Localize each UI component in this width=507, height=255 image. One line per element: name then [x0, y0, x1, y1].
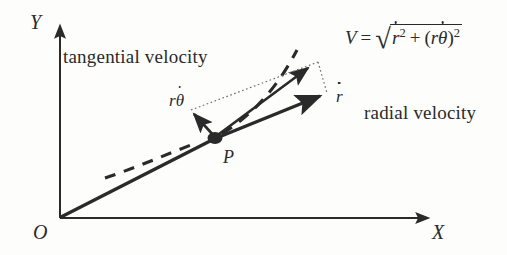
radical-icon: √: [375, 23, 391, 54]
x-axis-label: X: [432, 222, 444, 242]
origin-label: O: [33, 222, 47, 242]
formula-term2-exponent: 2: [454, 26, 460, 40]
velocity-magnitude-formula: V=√r2+(rθ)2: [345, 22, 462, 51]
formula-plus: +: [410, 27, 421, 48]
overdot-icon: [394, 21, 397, 24]
formula-term2-theta-dot: θ: [438, 28, 447, 47]
formula-term1-rdot: r: [392, 28, 399, 47]
formula-radicand: r2+(rθ)2: [390, 24, 462, 47]
point-p-label: P: [223, 148, 234, 166]
radial-velocity-label: radial velocity: [364, 103, 476, 122]
overdot-icon: [338, 82, 341, 85]
formula-term2-r: r: [431, 27, 438, 48]
overdot-icon: [441, 21, 444, 24]
radius-line-o-to-p: [61, 139, 214, 217]
formula-equals: =: [361, 27, 372, 48]
point-p-marker: [208, 132, 223, 144]
resultant-velocity-vector: [215, 68, 308, 137]
tangential-symbol-theta-dot: θ: [176, 92, 184, 109]
y-axis-label: Y: [30, 12, 41, 32]
formula-term1-exponent: 2: [399, 26, 405, 40]
radial-symbol-r-dot: r: [336, 88, 343, 105]
radial-vector-symbol: r: [336, 88, 343, 105]
formula-radical-group: √r2+(rθ)2: [375, 22, 462, 51]
tangential-vector-symbol: rθ: [169, 92, 184, 109]
formula-v: V: [345, 27, 357, 48]
overdot-icon: [179, 86, 182, 89]
construction-line-radial-side: [318, 62, 327, 93]
tangential-velocity-label: tangential velocity: [63, 47, 208, 66]
tangential-symbol-r: r: [169, 91, 176, 110]
velocity-polar-diagram: Y X O P tangential velocity radial veloc…: [0, 0, 507, 255]
radial-velocity-vector: [214, 96, 320, 139]
